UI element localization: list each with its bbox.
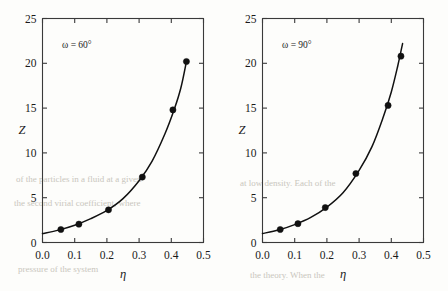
x-tick-label-2: 0.2	[100, 249, 115, 261]
x-tick-label-group: 0.00.10.20.30.40.5	[255, 249, 431, 261]
x-tick-label-3: 0.3	[132, 249, 147, 261]
x-tick-label-group: 0.00.10.20.30.40.5	[35, 249, 211, 261]
chart-panel-left: 0.00.10.20.30.40.5 0510152025 ω = 60° η …	[0, 0, 224, 291]
data-point	[139, 174, 145, 180]
panel-annotation: ω = 90°	[282, 40, 312, 50]
y-tick-label-5: 25	[25, 13, 37, 25]
data-point	[322, 204, 328, 210]
y-tick-label-2: 10	[25, 147, 37, 159]
plot-frame	[43, 19, 204, 243]
x-tick-label-5: 0.5	[416, 249, 431, 261]
y-tick-label-5: 25	[245, 13, 257, 25]
y-tick-label-3: 15	[25, 102, 37, 114]
data-point	[385, 102, 391, 108]
y-tick-label-0: 0	[251, 237, 257, 249]
x-axis-title: η	[340, 267, 346, 281]
y-tick-label-group: 0510152025	[25, 13, 37, 249]
x-tick-label-0: 0.0	[255, 249, 270, 261]
y-tick-label-1: 5	[31, 192, 37, 204]
data-point	[398, 53, 404, 59]
chart-svg-left: 0.00.10.20.30.40.5 0510152025 ω = 60° η …	[0, 0, 224, 291]
x-tick-label-4: 0.4	[384, 249, 399, 261]
y-tick-label-2: 10	[245, 147, 257, 159]
theory-curve	[263, 44, 403, 234]
y-tick-label-4: 20	[245, 57, 257, 69]
data-point	[170, 107, 176, 113]
y-axis-title: Z	[239, 123, 247, 137]
y-tick-label-1: 5	[251, 192, 257, 204]
data-point	[353, 170, 359, 176]
chart-svg-right: 0.00.10.20.30.40.5 0510152025 ω = 90° η …	[224, 0, 448, 291]
x-tick-label-2: 0.2	[320, 249, 335, 261]
y-tick-label-4: 20	[25, 57, 37, 69]
data-point-group	[277, 53, 404, 233]
x-tick-label-4: 0.4	[164, 249, 179, 261]
x-tick-label-0: 0.0	[35, 249, 50, 261]
plot-frame	[263, 19, 424, 243]
panel-annotation: ω = 60°	[62, 40, 92, 50]
x-tick-label-1: 0.1	[68, 249, 83, 261]
y-tick-label-3: 15	[245, 102, 257, 114]
data-point	[295, 221, 301, 227]
chart-panel-right: 0.00.10.20.30.40.5 0510152025 ω = 90° η …	[224, 0, 448, 291]
data-point	[183, 58, 189, 64]
theory-curve	[43, 62, 187, 234]
axis-ticks-left	[43, 19, 204, 243]
data-point	[105, 207, 111, 213]
y-tick-label-0: 0	[31, 237, 37, 249]
data-point	[58, 226, 64, 232]
data-point	[277, 226, 283, 232]
data-point-group	[58, 58, 190, 232]
x-axis-title: η	[120, 267, 126, 281]
x-tick-label-1: 0.1	[288, 249, 303, 261]
y-axis-title: Z	[19, 123, 27, 137]
x-tick-label-5: 0.5	[196, 249, 211, 261]
data-point	[76, 221, 82, 227]
axis-ticks-right	[263, 19, 424, 243]
figure-panels: 0.00.10.20.30.40.5 0510152025 ω = 60° η …	[0, 0, 448, 291]
y-tick-label-group: 0510152025	[245, 13, 257, 249]
x-tick-label-3: 0.3	[352, 249, 367, 261]
